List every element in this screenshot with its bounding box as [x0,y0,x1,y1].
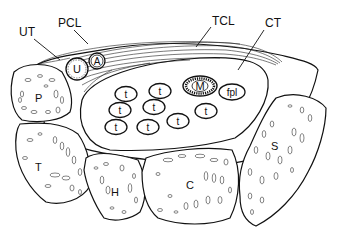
fpl-label: fpl [227,87,238,98]
bone-capitate: C [142,148,239,224]
callout-label-ct: CT [265,16,282,30]
ulnar-nerve-label: U [73,63,81,75]
svg-text:t: t [205,106,208,117]
bone-label-c: C [186,179,194,191]
tendon: t [143,100,165,115]
callout-pcl: PCL [58,16,88,44]
tendon: t [115,87,137,102]
tendon: t [109,103,131,118]
svg-text:t: t [153,102,156,113]
bone-triquetrum: T [16,123,91,203]
bone-label-p: P [35,92,42,104]
tendon: t [195,104,217,119]
bone-hamate: H [84,154,145,220]
tendon: t [167,114,189,129]
svg-text:t: t [159,86,162,97]
svg-text:t: t [177,116,180,127]
ulnar-artery: A [89,53,105,69]
bone-label-h: H [111,186,119,198]
carpal-tunnel-diagram: U A t t t t t t t t M fpl [0,0,341,240]
median-nerve: M [183,76,217,96]
bone-pisiform: P [11,65,71,122]
callout-ut: UT [19,25,60,60]
ulnar-nerve: U [66,58,88,80]
median-nerve-label: M [195,80,204,92]
callout-label-tcl: TCL [212,14,235,28]
bone-label-t: T [35,161,42,173]
callout-label-pcl: PCL [58,16,82,30]
bone-label-s: S [271,140,278,152]
callout-label-ut: UT [19,25,36,39]
ulnar-artery-label: A [94,56,101,67]
tendon: t [137,120,159,135]
flexor-pollicis-longus: fpl [219,84,245,100]
tendon: t [149,84,171,99]
svg-text:t: t [125,89,128,100]
svg-text:t: t [147,122,150,133]
svg-text:t: t [119,105,122,116]
svg-text:t: t [115,122,118,133]
tendon: t [105,120,127,135]
